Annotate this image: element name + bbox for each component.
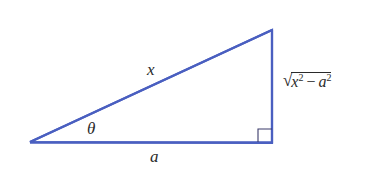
opposite-side-label: √x2−a2	[283, 72, 331, 90]
adjacent-side-label: a	[150, 148, 159, 165]
right-angle-marker	[258, 129, 272, 142]
angle-theta-label: θ	[87, 120, 95, 137]
hypotenuse-label: x	[147, 61, 155, 78]
exponent-a: 2	[326, 72, 331, 83]
minus-operator: −	[303, 73, 318, 90]
hypotenuse-side	[30, 30, 272, 142]
radicand: x2−a2	[291, 72, 331, 90]
